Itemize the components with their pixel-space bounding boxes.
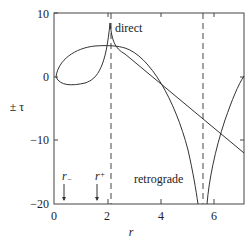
label-retrograde: retrograde (134, 172, 183, 186)
x-tick-label: 0 (51, 209, 57, 223)
r-minus-marker: r− (62, 169, 72, 201)
x-tick-label: 2 (104, 209, 110, 223)
y-tick-label: 10 (37, 7, 49, 21)
arrow-down-icon (62, 197, 66, 201)
x-axis-label: r (129, 225, 134, 239)
label-direct: direct (115, 21, 143, 35)
curve-right-branch (207, 76, 244, 204)
r-plus-marker: r+ (95, 169, 105, 201)
x-tick-label: 4 (158, 209, 164, 223)
y-tick-labels: 10 0 −10 −20 (30, 7, 49, 211)
label-r-plus: r+ (95, 169, 105, 183)
x-tick-label: 6 (211, 209, 217, 223)
y-tick-label: −10 (30, 133, 49, 147)
y-axis (54, 13, 244, 140)
curve-lower-branch (56, 23, 110, 85)
arrow-down-icon (95, 197, 99, 201)
x-tick-labels: 0 2 4 6 (51, 209, 217, 223)
y-axis-label: ± τ (10, 100, 25, 114)
chart: 10 0 −10 −20 0 2 4 6 r ± τ direct ret (0, 0, 250, 242)
y-tick-label: −20 (30, 197, 49, 211)
label-r-minus: r− (62, 169, 72, 184)
y-tick-label: 0 (43, 70, 49, 84)
